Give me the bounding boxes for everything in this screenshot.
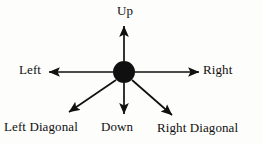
- label-right: Right: [203, 63, 232, 77]
- label-up: Up: [117, 4, 133, 18]
- arrow-left-diagonal: [69, 80, 116, 112]
- label-left: Left: [19, 63, 41, 77]
- center-node: [113, 61, 135, 83]
- arrow-right-diagonal: [132, 80, 172, 115]
- label-left-diagonal: Left Diagonal: [4, 120, 78, 134]
- label-right-diagonal: Right Diagonal: [157, 121, 238, 135]
- label-down: Down: [101, 120, 133, 134]
- direction-diagram: Up Left Right Down Left Diagonal Right D…: [0, 0, 262, 144]
